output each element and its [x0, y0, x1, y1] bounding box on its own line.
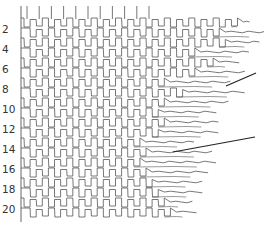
pattern-row-tail — [152, 117, 199, 118]
pattern-row-tail — [152, 197, 186, 198]
pattern-row — [21, 188, 202, 197]
pattern-row-tail — [134, 167, 197, 168]
pattern-row — [21, 128, 218, 137]
pattern-rows — [21, 18, 264, 217]
pattern-row — [21, 68, 245, 77]
top-ticks — [27, 6, 149, 19]
pattern-row — [21, 198, 192, 207]
pattern-row-tail — [164, 217, 182, 218]
pattern-row-tail — [207, 67, 225, 68]
row-label: 18 — [2, 183, 18, 195]
pattern-row — [21, 158, 216, 167]
pattern-row-tail — [140, 177, 190, 178]
pattern-row-tail — [158, 107, 210, 108]
pattern-row-tail — [152, 137, 201, 138]
pattern-row — [21, 108, 216, 117]
row-label: 4 — [2, 43, 18, 55]
row-label: 12 — [2, 123, 18, 135]
row-label: 20 — [2, 203, 18, 215]
pattern-row — [21, 78, 230, 87]
pattern-row — [21, 88, 245, 97]
row-label: 14 — [2, 143, 18, 155]
row-label: 10 — [2, 103, 18, 115]
pattern-row-tail — [177, 97, 227, 98]
pattern-row — [21, 48, 249, 57]
pattern-row-tail — [231, 27, 236, 28]
pattern-row — [21, 58, 239, 67]
pattern-row-tail — [219, 47, 244, 48]
pattern-row — [21, 168, 208, 177]
pattern-row — [21, 38, 259, 47]
row-label: 6 — [2, 63, 18, 75]
pattern-row — [21, 118, 218, 127]
pattern-row-tail — [158, 87, 212, 88]
row-label: 2 — [2, 23, 18, 35]
pattern-row — [21, 208, 197, 217]
pattern-row-tail — [134, 147, 177, 148]
pattern-row-tail — [189, 77, 229, 78]
pattern-row — [21, 148, 212, 157]
pattern-row — [21, 28, 264, 37]
pattern-row-tail — [158, 127, 201, 128]
pattern-row-tail — [140, 157, 194, 158]
pattern-row-tail — [213, 37, 249, 38]
pattern-row-tail — [158, 207, 178, 208]
row-label: 16 — [2, 163, 18, 175]
leader-line — [173, 137, 255, 152]
pattern-row — [21, 18, 250, 27]
leader-line — [226, 73, 256, 86]
row-label: 8 — [2, 83, 18, 95]
pattern-row-tail — [189, 57, 232, 58]
pattern-row — [21, 98, 228, 107]
pattern-row — [21, 138, 194, 147]
pattern-row — [21, 178, 202, 187]
brick-row-diagram — [0, 0, 264, 226]
